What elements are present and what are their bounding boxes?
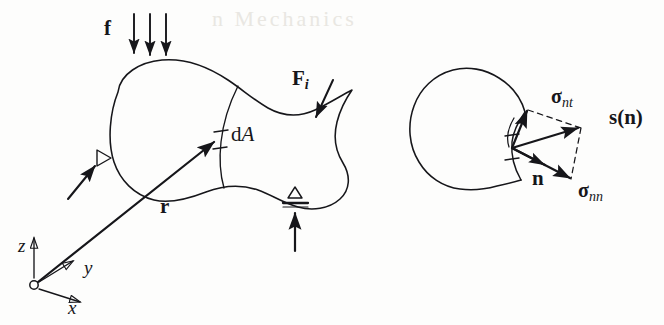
label-normal-stress: σnn — [578, 180, 603, 204]
label-area-element-d: d — [231, 122, 242, 146]
support-left-triangle — [97, 150, 111, 166]
figure-root: n Mechanics — [0, 0, 664, 325]
axis-label-y: y — [84, 258, 92, 277]
figure-linework — [0, 0, 664, 325]
support-left-reaction-arrow — [68, 166, 95, 199]
label-normal-stress-symbol: σ — [578, 179, 589, 201]
point-force-arrow-shaft — [316, 80, 333, 117]
shear-stress-vector — [512, 111, 527, 148]
decomposition-dashed-lower — [571, 128, 581, 179]
label-normal-stress-subscript: nn — [589, 189, 603, 204]
da-tick-upper — [214, 130, 228, 132]
traction-vector-s — [512, 128, 578, 148]
label-position-vector: r — [160, 196, 169, 217]
cut-body-outline — [410, 68, 525, 190]
label-traction-vector: s(n) — [609, 107, 643, 128]
position-vector-r — [38, 142, 214, 282]
point-force-arrow — [0, 0, 334, 79]
label-point-force-subscript: i — [305, 76, 309, 92]
cut-face-tick-lower — [505, 158, 519, 160]
label-unit-normal: n — [532, 168, 544, 189]
label-shear-stress: σnt — [551, 86, 573, 110]
axis-label-x: x — [68, 298, 76, 317]
origin-marker — [30, 281, 38, 289]
axis-y — [39, 261, 73, 282]
label-area-element: dA — [231, 124, 254, 145]
label-point-force: Fi — [292, 68, 309, 91]
da-tick-lower — [213, 147, 227, 149]
label-shear-stress-subscript: nt — [562, 95, 573, 110]
label-shear-stress-symbol: σ — [551, 85, 562, 107]
decomposition-dashed-upper — [528, 110, 581, 128]
support-right-triangle — [288, 187, 302, 198]
label-point-force-symbol: F — [292, 66, 305, 90]
label-distributed-load: f — [104, 18, 111, 39]
label-area-element-a: A — [242, 122, 255, 146]
axis-label-z: z — [18, 236, 25, 255]
unit-normal-vector — [512, 148, 545, 165]
